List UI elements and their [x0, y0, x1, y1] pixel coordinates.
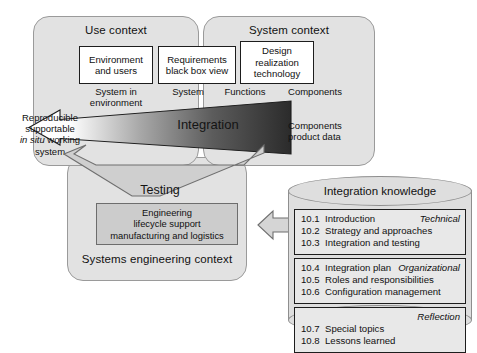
environment-box-line2: and users [89, 65, 143, 76]
knowledge-item-text: Configuration management [325, 286, 441, 297]
knowledge-item-row: 10.1Introduction Technical [301, 213, 460, 225]
knowledge-cylinder-title: Integration knowledge [288, 185, 472, 197]
system-in-environment-line1: System in [70, 86, 162, 97]
requirements-box-line2: black box view [166, 65, 228, 76]
components-product-data-line2: product data [288, 131, 372, 142]
knowledge-item-row: 10.8Lessons learned [301, 335, 460, 347]
box-requirements-black-box-view: Requirements black box view [158, 46, 236, 84]
knowledge-item-number: 10.2 [301, 225, 325, 237]
knowledge-item-number: 10.5 [301, 274, 325, 286]
requirements-box-line1: Requirements [166, 54, 228, 65]
knowledge-item-row: 10.5Roles and responsibilities [301, 274, 460, 286]
testing-label: Testing [110, 183, 210, 197]
environment-box-line1: Environment [89, 54, 143, 65]
engineering-line1: Engineering [110, 207, 224, 218]
engineering-line2: lifecycle support [110, 218, 224, 229]
label-components: Components [276, 86, 354, 97]
box-environment-and-users: Environment and users [79, 46, 153, 84]
knowledge-group-tag-row: Reflection [301, 311, 460, 323]
knowledge-group-tag: Organizational [398, 262, 460, 274]
use-context-title: Use context [33, 24, 199, 36]
integration-arrow-label: Integration [160, 117, 256, 132]
knowledge-item-row: 10.7Special topics [301, 323, 460, 335]
design-box-line1: Design [254, 45, 300, 56]
knowledge-item-number: 10.6 [301, 286, 325, 298]
design-box-line2: realization [254, 57, 300, 68]
label-components-product-data: Components product data [288, 120, 372, 142]
engineering-line3: manufacturing and logistics [110, 230, 224, 241]
knowledge-item-row: 10.4Integration plan Organizational [301, 262, 460, 274]
components-product-data-line1: Components [288, 120, 372, 131]
knowledge-item-number: 10.7 [301, 323, 325, 335]
knowledge-item-text: Lessons learned [325, 335, 395, 346]
box-engineering-lifecycle: Engineering lifecycle support manufactur… [96, 203, 238, 245]
in-situ-italic: in situ [20, 134, 45, 145]
systems-engineering-context-title: Systems engineering context [67, 253, 247, 265]
box-design-realization-technology: Design realization technology [240, 41, 314, 84]
knowledge-item-number: 10.8 [301, 335, 325, 347]
knowledge-item-text: Introduction [325, 213, 375, 224]
knowledge-item-number: 10.1 [301, 213, 325, 225]
knowledge-item-row: 10.3Integration and testing [301, 237, 460, 249]
knowledge-item-number: 10.4 [301, 262, 325, 274]
system-context-title: System context [203, 24, 375, 36]
knowledge-item-number: 10.3 [301, 237, 325, 249]
knowledge-item-text: Roles and responsibilities [325, 274, 434, 285]
label-functions: Functions [212, 86, 278, 97]
knowledge-item-row: 10.6Configuration management [301, 286, 460, 298]
design-box-line3: technology [254, 68, 300, 79]
knowledge-item-text: Strategy and approaches [325, 225, 432, 236]
knowledge-item-text: Integration plan [325, 262, 391, 273]
reproducible-line2: supportable [8, 123, 92, 134]
knowledge-group-technical: 10.1Introduction Technical 10.2Strategy … [294, 209, 466, 255]
knowledge-group-tag: Technical [420, 213, 460, 225]
knowledge-item-text: Integration and testing [325, 237, 420, 248]
knowledge-item-row: 10.2Strategy and approaches [301, 225, 460, 237]
knowledge-group-tag: Reflection [417, 311, 460, 322]
reproducible-line1: Reproducible [8, 112, 92, 123]
knowledge-group-organizational: 10.4Integration plan Organizational 10.5… [294, 258, 466, 304]
label-system: System [157, 86, 219, 97]
knowledge-group-reflection: Reflection 10.7Special topics 10.8Lesson… [294, 307, 466, 353]
knowledge-item-text: Special topics [325, 323, 384, 334]
